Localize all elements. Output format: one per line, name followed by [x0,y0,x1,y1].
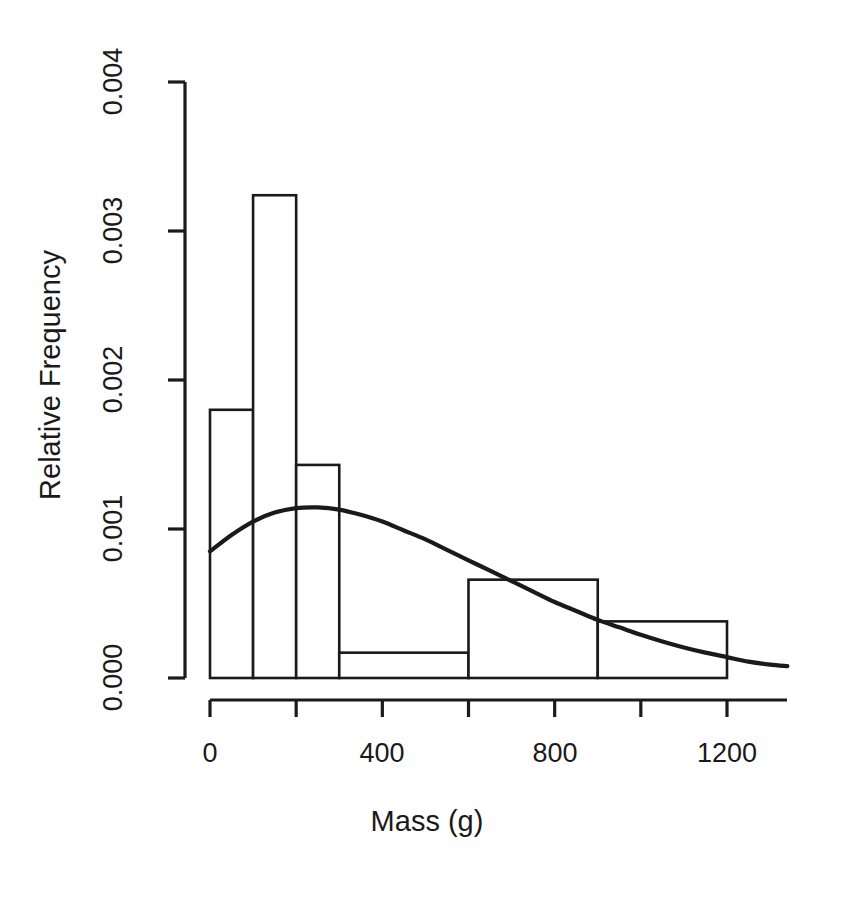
x-axis-title: Mass (g) [0,805,854,838]
y-tick-label: 0.000 [98,628,129,728]
y-tick-label: 0.003 [98,181,129,281]
y-tick-label: 0.001 [98,479,129,579]
x-tick-label: 800 [485,738,625,769]
y-tick-label: 0.004 [98,32,129,132]
y-axis [168,82,185,678]
y-tick-label: 0.002 [98,330,129,430]
x-tick-label: 400 [312,738,452,769]
histogram-bar [339,653,468,678]
histogram-bar [469,580,598,678]
histogram-bars [210,195,727,678]
histogram-bar [253,195,296,678]
x-axis [210,700,787,717]
x-tick-label: 1200 [657,738,797,769]
x-tick-label: 0 [140,738,280,769]
histogram-bar [598,621,727,678]
chart-canvas: 0.0000.0010.0020.0030.004 04008001200 Re… [0,0,854,898]
histogram-bar [296,465,339,678]
y-axis-title: Relative Frequency [34,250,67,500]
